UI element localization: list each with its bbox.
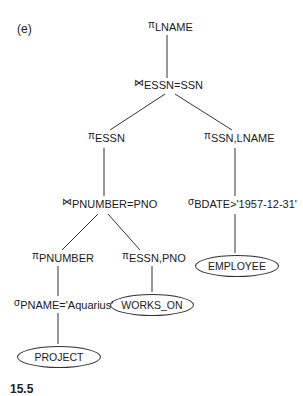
pi-icon: π xyxy=(122,250,129,261)
caption-fragment: 15.5 xyxy=(10,382,33,396)
relation-project: PROJECT xyxy=(17,346,101,368)
join-icon: ⋈ xyxy=(62,196,72,207)
pi-icon: π xyxy=(204,130,211,141)
projection-lname: πLNAME xyxy=(148,22,193,33)
projection-pnumber: πPNUMBER xyxy=(32,253,94,264)
pi-icon: π xyxy=(32,250,39,261)
figure-label: (e) xyxy=(17,23,32,35)
join-icon: ⋈ xyxy=(134,77,144,88)
pi-icon: π xyxy=(148,19,155,30)
projection-essn: πESSN xyxy=(88,133,125,144)
select-bdate: σBDATE>'1957-12-31' xyxy=(188,199,297,210)
relation-works-on: WORKS_ON xyxy=(110,294,194,316)
relation-employee: EMPLOYEE xyxy=(195,255,279,277)
projection-essn-pno: πESSN,PNO xyxy=(122,253,186,264)
sigma-icon: σ xyxy=(14,297,20,308)
select-pname: σPNAME='Aquarius' xyxy=(14,300,113,311)
sigma-icon: σ xyxy=(188,196,194,207)
join-pnumber-pno: ⋈PNUMBER=PNO xyxy=(62,199,157,210)
projection-ssn-lname: πSSN,LNAME xyxy=(204,133,274,144)
pi-icon: π xyxy=(88,130,95,141)
join-essn-ssn: ⋈ESSN=SSN xyxy=(134,80,203,91)
